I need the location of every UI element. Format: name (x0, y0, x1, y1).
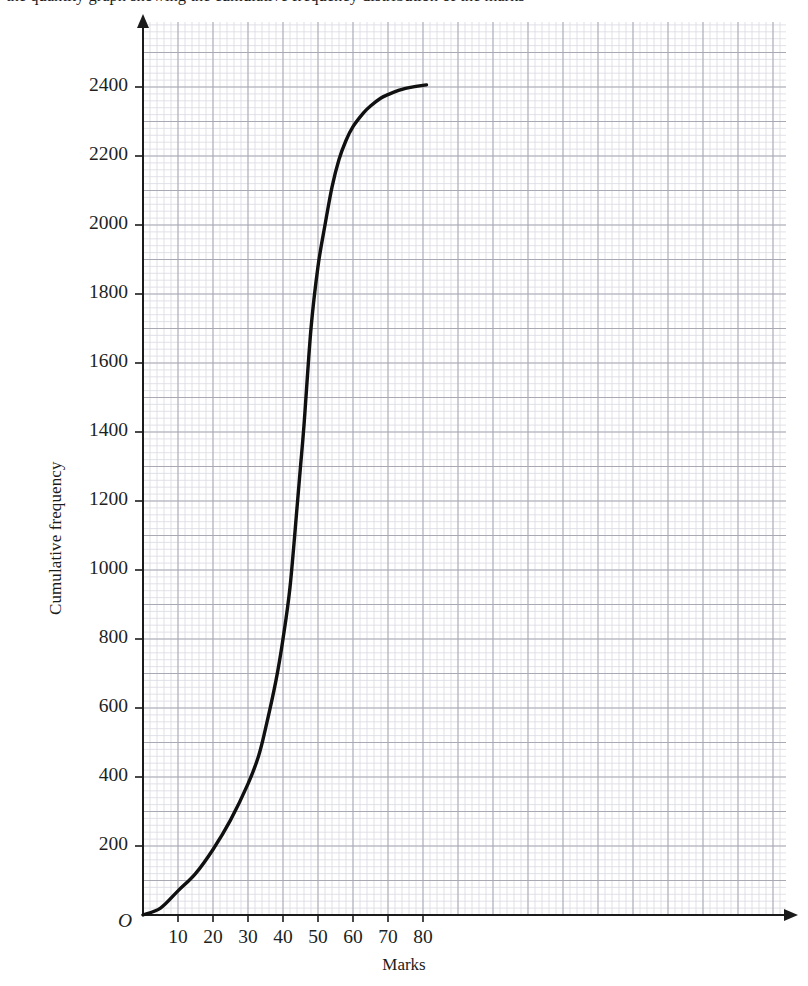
y-tick-label: 1800 (56, 281, 128, 303)
y-tick-label: 1200 (56, 488, 128, 510)
y-tick-label: 2400 (56, 74, 128, 96)
y-tick-label: 1000 (56, 557, 128, 579)
x-tick-label: 80 (393, 926, 453, 948)
y-tick-label: 2200 (56, 143, 128, 165)
y-axis-title: Cumulative frequency (46, 315, 66, 615)
axis-lines (143, 26, 786, 915)
y-tick-label: 1600 (56, 350, 128, 372)
grid-major-lines (143, 22, 786, 915)
origin-label: O (118, 910, 132, 932)
y-tick-label: 2000 (56, 212, 128, 234)
y-tick-label: 400 (56, 764, 128, 786)
figure-page: the quantity graph showing the cumulativ… (0, 0, 808, 986)
y-tick-label: 1400 (56, 419, 128, 441)
x-axis-title: Marks (0, 955, 808, 975)
y-tick-label: 800 (56, 626, 128, 648)
y-tick-label: 600 (56, 695, 128, 717)
y-tick-label: 200 (56, 833, 128, 855)
